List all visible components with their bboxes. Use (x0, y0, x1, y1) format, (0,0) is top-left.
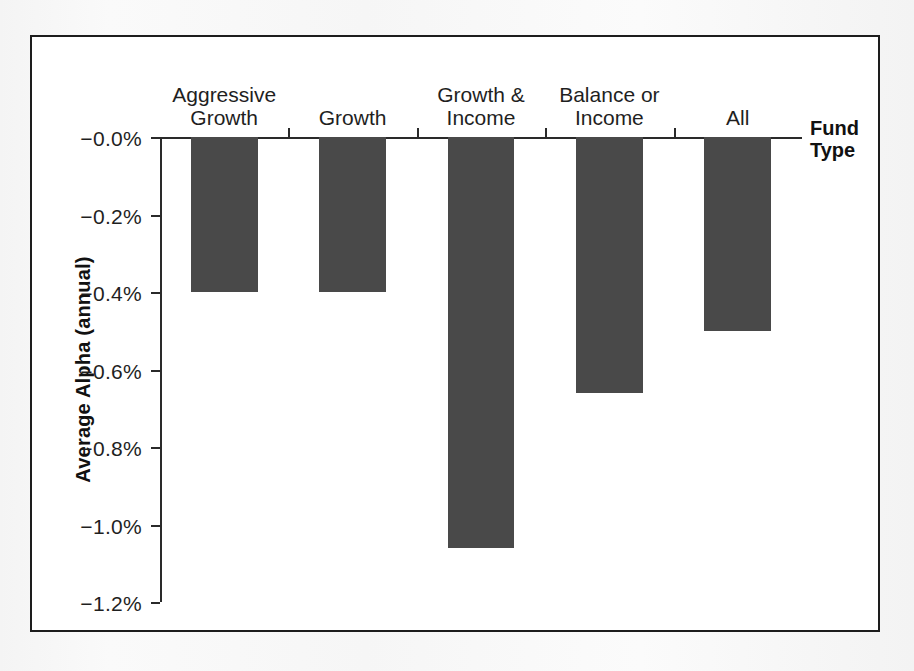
y-axis-line (160, 137, 162, 602)
y-tick-label: −1.0% (80, 514, 142, 538)
y-tick-label: −0.4% (80, 282, 142, 306)
x-tick-mark (417, 128, 419, 137)
y-tick-mark: −0.8% (151, 447, 160, 449)
bar-1 (191, 137, 258, 292)
bar-2 (319, 137, 386, 292)
bar-5 (704, 137, 771, 331)
x-tick-mark (674, 128, 676, 137)
y-tick-mark: −0.0% (151, 137, 160, 139)
x-tick-mark (288, 128, 290, 137)
y-tick-label: −0.2% (80, 204, 142, 228)
y-tick-label: −1.2% (80, 592, 142, 616)
chart-figure-frame: Average Alpha (annual) Fund Type −0.0%−0… (30, 35, 880, 632)
category-label-5: All (645, 107, 830, 129)
bar-4 (576, 137, 643, 393)
y-tick-mark: −0.6% (151, 370, 160, 372)
y-tick-label: −0.0% (80, 127, 142, 151)
y-tick-mark: −1.0% (151, 525, 160, 527)
y-tick-label: −0.8% (80, 437, 142, 461)
plot-area: −0.0%−0.2%−0.4%−0.6%−0.8%−1.0%−1.2% Aggr… (160, 137, 802, 602)
y-tick-mark: −1.2% (151, 602, 160, 604)
y-tick-label: −0.6% (80, 359, 142, 383)
y-tick-mark: −0.2% (151, 215, 160, 217)
y-tick-mark: −0.4% (151, 292, 160, 294)
x-tick-mark (545, 128, 547, 137)
bar-3 (448, 137, 515, 548)
